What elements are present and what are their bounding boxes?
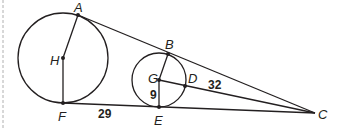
point-f	[61, 101, 65, 105]
label-d: D	[188, 71, 197, 86]
label-a: A	[73, 0, 83, 15]
point-e	[157, 105, 161, 109]
measure-dc: 32	[208, 78, 222, 92]
label-c: C	[318, 107, 328, 122]
tangent-ac	[78, 15, 315, 113]
label-g: G	[148, 71, 158, 86]
radius-ha	[63, 15, 78, 58]
label-h: H	[50, 53, 60, 68]
label-f: F	[58, 109, 67, 124]
measure-fe: 29	[98, 107, 112, 121]
geometry-diagram: A H F B G D E C 29 9 32	[0, 0, 342, 128]
label-e: E	[154, 113, 163, 128]
point-h	[61, 56, 65, 60]
radius-gb	[159, 54, 168, 80]
point-b	[166, 52, 170, 56]
label-b: B	[165, 37, 174, 52]
point-d	[183, 84, 187, 88]
measure-ge: 9	[150, 88, 157, 102]
